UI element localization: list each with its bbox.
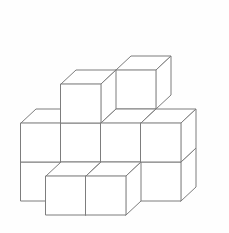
cube-right-upper-cube [116, 56, 171, 109]
cube-front-face [116, 70, 156, 109]
cube-front-face [61, 84, 101, 123]
isometric-cube-figure: Isometric Cube Stack Figure Line drawing… [0, 0, 229, 233]
cube-front-face [61, 123, 101, 162]
cube-center-front-cube [86, 162, 141, 215]
cube-front-face [141, 162, 181, 201]
cube-front-face [101, 123, 141, 162]
cube-tower-top [61, 70, 116, 123]
cube-front-face [46, 176, 86, 215]
cube-right-column-top [141, 109, 196, 162]
cube-front-face [21, 123, 61, 162]
cube-front-face [141, 123, 181, 162]
cube-front-face [86, 176, 126, 215]
